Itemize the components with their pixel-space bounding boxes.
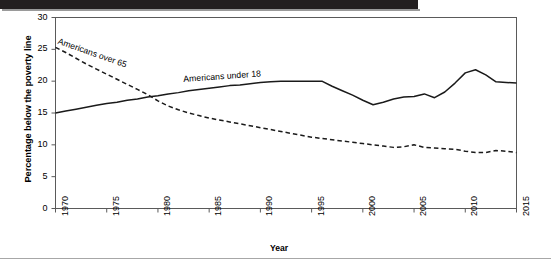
x-tick-label: 1990: [264, 195, 274, 215]
y-tick-label: 5: [32, 171, 48, 181]
chart-canvas: [0, 0, 551, 266]
x-axis-title: Year: [270, 243, 288, 253]
chart-page: Percentage below the poverty line Year 0…: [0, 0, 551, 266]
x-tick-label: 2010: [469, 195, 479, 215]
plot-frame: [56, 18, 517, 209]
x-tick-label: 2015: [521, 195, 531, 215]
y-tick-label: 25: [32, 43, 48, 53]
x-tick-label: 1985: [213, 195, 223, 215]
x-tick-label: 1995: [316, 195, 326, 215]
poverty-line-chart: Percentage below the poverty line Year 0…: [0, 0, 551, 266]
y-tick-label: 15: [32, 107, 48, 117]
axis-ticks: [52, 18, 517, 213]
x-tick-label: 2000: [367, 195, 377, 215]
x-tick-label: 2005: [418, 195, 428, 215]
x-tick-label: 1970: [60, 195, 70, 215]
bottom-divider: [0, 258, 551, 259]
y-tick-label: 30: [32, 12, 48, 22]
x-tick-label: 1980: [162, 195, 172, 215]
y-tick-label: 20: [32, 75, 48, 85]
y-tick-label: 10: [32, 139, 48, 149]
series-line-americans-under-18: [56, 70, 517, 113]
y-tick-label: 0: [32, 203, 48, 213]
x-tick-label: 1975: [111, 195, 121, 215]
